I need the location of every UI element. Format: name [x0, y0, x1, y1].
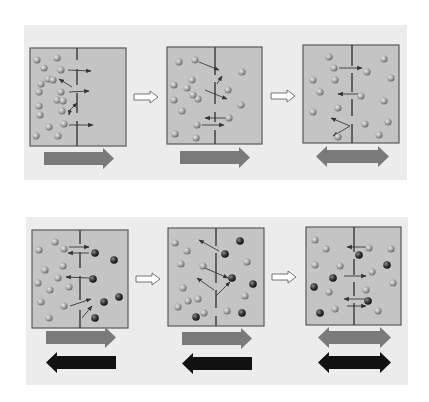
solute-particle-light — [224, 86, 231, 93]
solute-particle-light — [40, 64, 47, 71]
solute-particle-light — [178, 107, 185, 114]
solute-particle-light — [41, 266, 48, 273]
solute-particle-light — [330, 64, 337, 71]
solute-particle-light — [357, 92, 364, 99]
solute-particle-dark — [221, 250, 229, 258]
solute-particle-light — [179, 284, 186, 291]
solute-particle-light — [57, 88, 64, 95]
solute-particle-light — [189, 91, 196, 98]
solute-particle-light — [192, 134, 199, 141]
solute-particle-dark — [228, 274, 236, 282]
solute-particle-dark — [192, 313, 200, 321]
solute-particle-light — [336, 262, 343, 269]
solute-particle-light — [171, 130, 178, 137]
solute-particle-light — [59, 262, 66, 269]
solute-particle-dark — [115, 293, 123, 301]
diffusion-diagram — [0, 0, 429, 402]
solute-particle-light — [53, 54, 60, 61]
solute-particle-light — [374, 307, 381, 314]
solute-particle-dark — [110, 256, 118, 264]
solute-particle-light — [37, 80, 44, 87]
solute-particle-dark — [364, 297, 372, 305]
solute-particle-light — [51, 238, 58, 245]
solute-particle-light — [184, 297, 191, 304]
solute-particle-light — [174, 303, 181, 310]
solute-particle-light — [365, 244, 372, 251]
solute-particle-light — [175, 58, 182, 65]
solute-particle-light — [191, 56, 198, 63]
solute-particle-light — [54, 132, 61, 139]
panels — [30, 45, 401, 374]
solute-particle-dark — [238, 309, 246, 317]
solute-particle-light — [241, 292, 248, 299]
solute-particle-light — [316, 88, 323, 95]
solute-particle-light — [199, 262, 206, 269]
solute-particle-light — [200, 309, 207, 316]
solute-particle-light — [60, 245, 67, 252]
solute-particle-light — [223, 307, 230, 314]
solute-particle-light — [362, 286, 369, 293]
solute-particle-light — [57, 66, 64, 73]
solute-particle-light — [33, 56, 40, 63]
solute-particle-light — [45, 314, 52, 321]
solute-particle-light — [243, 258, 250, 265]
solute-particle-light — [334, 104, 341, 111]
solute-particle-light — [58, 107, 65, 114]
solute-particle-light — [45, 123, 52, 130]
solute-particle-light — [35, 102, 42, 109]
solute-particle-light — [311, 261, 318, 268]
solute-particle-light — [375, 131, 382, 138]
solute-particle-light — [309, 76, 316, 83]
container — [30, 48, 126, 146]
solute-particle-light — [65, 283, 72, 290]
solute-particle-light — [183, 247, 190, 254]
solute-particle-light — [384, 118, 391, 125]
solute-particle-light — [309, 108, 316, 115]
solute-particle-light — [380, 55, 387, 62]
solute-particle-light — [37, 298, 44, 305]
solute-particle-dark — [310, 283, 318, 291]
solute-particle-light — [59, 97, 66, 104]
solute-particle-dark — [355, 251, 363, 259]
solute-particle-dark — [91, 314, 99, 322]
solute-particle-dark — [316, 309, 324, 317]
solute-particle-light — [387, 245, 394, 252]
solute-particle-light — [387, 74, 394, 81]
solute-particle-light — [331, 76, 338, 83]
solute-particle-light — [389, 279, 396, 286]
solute-particle-dark — [89, 275, 97, 283]
solute-particle-dark — [100, 298, 108, 306]
solute-particle-light — [34, 279, 41, 286]
solute-particle-light — [171, 239, 178, 246]
solute-particle-light — [183, 84, 190, 91]
solute-particle-light — [46, 286, 53, 293]
solute-particle-light — [54, 274, 61, 281]
solute-particle-light — [36, 111, 43, 118]
solute-particle-light — [311, 236, 318, 243]
solute-particle-light — [35, 246, 42, 253]
solute-particle-dark — [236, 237, 244, 245]
solute-particle-light — [193, 121, 200, 128]
solute-particle-light — [194, 295, 201, 302]
solute-particle-light — [325, 288, 332, 295]
solute-particle-light — [35, 88, 42, 95]
solute-particle-light — [170, 81, 177, 88]
solute-particle-light — [368, 268, 375, 275]
solute-particle-light — [361, 120, 368, 127]
solute-particle-light — [60, 302, 67, 309]
solute-particle-dark — [249, 280, 257, 288]
solute-particle-light — [188, 76, 195, 83]
solute-particle-light — [238, 68, 245, 75]
solute-particle-light — [32, 132, 39, 139]
solute-particle-light — [170, 96, 177, 103]
solute-particle-light — [53, 96, 60, 103]
solute-particle-light — [322, 245, 329, 252]
solute-particle-light — [363, 68, 370, 75]
solute-particle-light — [334, 133, 341, 140]
solute-particle-light — [60, 120, 67, 127]
solute-particle-light — [237, 101, 244, 108]
solute-particle-light — [331, 305, 338, 312]
solute-particle-dark — [91, 249, 99, 257]
solute-particle-light — [177, 260, 184, 267]
solute-particle-dark — [329, 274, 337, 282]
